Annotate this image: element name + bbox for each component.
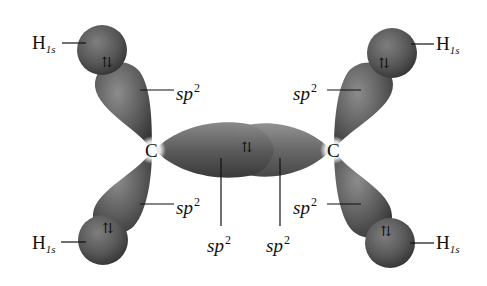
carbon-atom-left: C (145, 141, 158, 160)
label-h1s-bottom-right: H1s (436, 233, 460, 255)
label-sp2-top-right: sp2 (293, 82, 317, 103)
label-sp2-top-left: sp2 (176, 82, 200, 103)
electron-pair-arrows-bottom-left: ⇅ (102, 222, 114, 236)
label-sp2-center-right: sp2 (266, 234, 290, 255)
label-h1s-top-left: H1s (32, 33, 56, 55)
label-sp2-bottom-left: sp2 (176, 196, 200, 217)
electron-pair-arrows-center: ⇅ (241, 141, 253, 155)
label-sp2-bottom-right: sp2 (293, 196, 317, 217)
h1s-orbital-top-right (367, 28, 417, 78)
carbon-atom-right: C (327, 141, 340, 160)
electron-pair-arrows-top-left: ⇅ (101, 56, 113, 70)
label-h1s-bottom-left: H1s (32, 233, 56, 255)
ethylene-sp2-diagram: ⇅ ⇅ ⇅ ⇅ ⇅ C C H1s H1s H1s H1s sp2 sp2 sp… (0, 0, 487, 286)
label-h1s-top-right: H1s (436, 34, 460, 56)
label-sp2-center-left: sp2 (207, 234, 231, 255)
electron-pair-arrows-top-right: ⇅ (378, 57, 390, 71)
electron-pair-arrows-bottom-right: ⇅ (380, 225, 392, 239)
sp2-lobe-top-left (95, 62, 152, 150)
